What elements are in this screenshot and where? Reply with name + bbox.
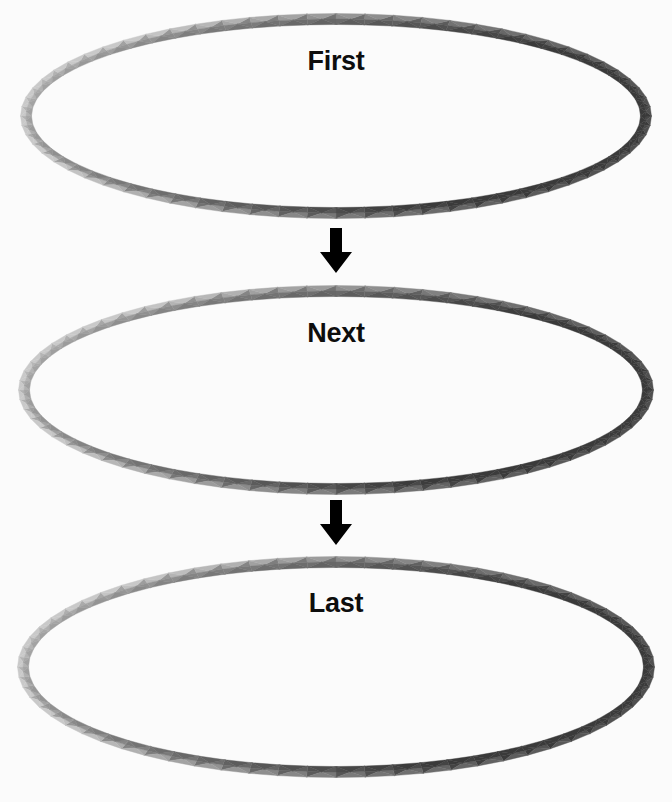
ring-first <box>0 0 672 240</box>
diagram-canvas: First Next Last <box>0 0 672 802</box>
stage-label-last: Last <box>0 590 672 617</box>
ring-facets <box>19 286 654 495</box>
stage-label-first: First <box>0 48 672 75</box>
ring-facets <box>21 14 652 219</box>
ring-facet <box>595 157 609 164</box>
ring-facet <box>61 711 75 719</box>
arrow-next-to-last <box>0 500 672 546</box>
arrow-down-icon <box>319 500 353 546</box>
ring-facet <box>62 432 76 440</box>
ring-facet <box>597 711 611 719</box>
arrow-down-icon <box>319 228 353 274</box>
stage-label-next: Next <box>0 320 672 347</box>
ring-facet <box>597 432 611 440</box>
arrow-first-to-next <box>0 228 672 274</box>
ring-facet <box>63 157 77 164</box>
ring-next <box>0 270 672 510</box>
